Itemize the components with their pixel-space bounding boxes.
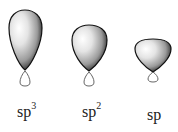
label-sp3-base: sp bbox=[17, 103, 31, 120]
orbital-sp3 bbox=[9, 10, 42, 86]
label-sp2-base: sp bbox=[82, 103, 96, 120]
label-sp3-superscript: 3 bbox=[31, 100, 36, 111]
sp3-large-lobe bbox=[9, 10, 42, 70]
sp3-small-lobe bbox=[20, 71, 30, 86]
sp-large-lobe bbox=[135, 39, 171, 72]
label-sp: sp bbox=[147, 107, 161, 123]
label-sp2-superscript: 2 bbox=[96, 100, 101, 111]
orbital-sp bbox=[135, 39, 171, 82]
sp2-small-lobe bbox=[84, 72, 94, 86]
orbital-sp2 bbox=[72, 25, 107, 86]
label-sp2: sp2 bbox=[82, 104, 101, 120]
label-sp-base: sp bbox=[147, 106, 161, 123]
sp-small-lobe bbox=[148, 72, 158, 82]
sp2-large-lobe bbox=[72, 25, 107, 71]
label-sp3: sp3 bbox=[17, 104, 36, 120]
